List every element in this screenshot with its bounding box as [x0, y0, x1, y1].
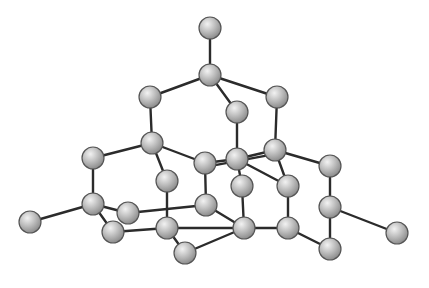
atom-a23 — [233, 217, 255, 239]
atom-a4 — [226, 101, 248, 123]
atom-a12 — [156, 170, 178, 192]
atom-a8 — [226, 148, 248, 170]
atom-a11 — [319, 155, 341, 177]
molecule-svg — [0, 0, 429, 288]
atom-a2 — [199, 64, 221, 86]
atom-a7 — [264, 139, 286, 161]
atom-a26 — [319, 238, 341, 260]
atom-a24 — [277, 217, 299, 239]
atom-a14 — [277, 175, 299, 197]
atom-a25 — [174, 242, 196, 264]
atom-a15 — [82, 193, 104, 215]
atom-a17 — [117, 202, 139, 224]
atom-a22 — [156, 217, 178, 239]
atom-a9 — [194, 152, 216, 174]
atom-a13 — [231, 175, 253, 197]
atom-a18 — [319, 196, 341, 218]
atom-a21 — [102, 221, 124, 243]
atom-a1 — [199, 17, 221, 39]
atom-a5 — [266, 86, 288, 108]
atom-a16 — [195, 194, 217, 216]
atom-a3 — [139, 86, 161, 108]
molecule-diagram — [0, 0, 429, 288]
atom-a10 — [82, 147, 104, 169]
atom-a19 — [19, 211, 41, 233]
bonds-layer — [30, 28, 397, 253]
atom-a20 — [386, 222, 408, 244]
atom-a6 — [141, 132, 163, 154]
